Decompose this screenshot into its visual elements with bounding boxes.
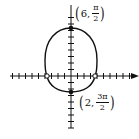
theta-numerator: π xyxy=(92,4,99,14)
label-bottom-theta: 3π 2 xyxy=(96,93,108,112)
label-top-point: ( 6, π 2 ) xyxy=(74,4,106,23)
theta-denominator: 2 xyxy=(100,103,105,112)
polar-graph: ( 6, π 2 ) ( 2, 3π 2 ) xyxy=(0,0,139,139)
point-top-filled xyxy=(69,26,74,31)
theta-denominator: 2 xyxy=(93,14,98,23)
x-axis-arrow-icon xyxy=(131,73,139,79)
theta-numerator: 3π xyxy=(96,93,108,103)
polar-plot xyxy=(0,0,139,139)
label-top-theta: π 2 xyxy=(92,4,99,23)
point-bottom-filled xyxy=(69,90,74,95)
label-bottom-point: ( 2, 3π 2 ) xyxy=(78,93,115,112)
point-left-open xyxy=(45,74,49,78)
point-right-open xyxy=(93,74,97,78)
